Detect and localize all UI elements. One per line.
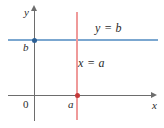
equation-label-y-equals-b: y = b	[95, 22, 122, 34]
y-axis-label: y	[24, 7, 29, 18]
y-tick-label-b: b	[23, 42, 29, 53]
y-axis-line	[34, 9, 35, 121]
x-tick-label-a: a	[68, 99, 74, 110]
coordinate-plane-figure: y x 0 b a y = b x = a	[0, 0, 164, 128]
y-axis-arrow-icon	[31, 5, 37, 11]
origin-label: 0	[23, 99, 29, 110]
x-axis-line	[8, 95, 153, 96]
horizontal-line-y-equals-b	[8, 39, 158, 41]
x-intercept-point	[75, 93, 80, 98]
y-intercept-point	[32, 38, 37, 43]
equation-label-x-equals-a: x = a	[78, 57, 105, 69]
x-axis-arrow-icon	[151, 92, 157, 98]
x-axis-label: x	[152, 100, 157, 111]
